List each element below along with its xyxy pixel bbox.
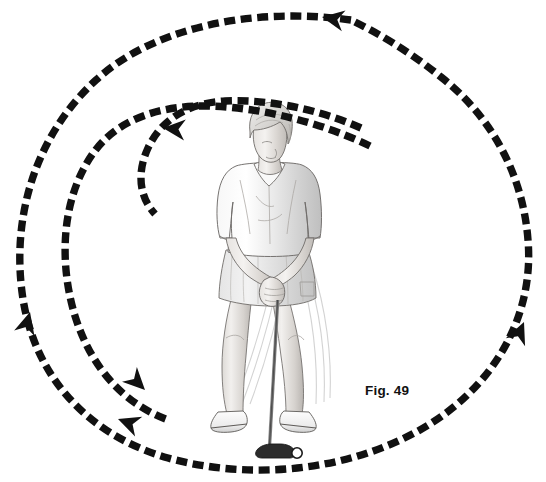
golfer-hands — [259, 277, 284, 306]
golfer-illustration — [211, 102, 331, 458]
golf-ball — [292, 448, 302, 458]
golf-club-shaft — [268, 300, 280, 450]
figure-caption: Fig. 49 — [365, 383, 409, 398]
figure-container: Fig. 49 — [0, 0, 546, 482]
middle-arc-arrow-lower-icon — [122, 367, 152, 397]
golfer-left-leg — [222, 296, 252, 414]
golf-club-head — [256, 444, 295, 458]
golfer-right-shoe — [280, 411, 316, 432]
outer-arc-arrow-bottom-left-icon — [114, 409, 142, 436]
swing-plane-diagram — [0, 0, 546, 482]
golfer-left-shoe — [211, 411, 247, 432]
